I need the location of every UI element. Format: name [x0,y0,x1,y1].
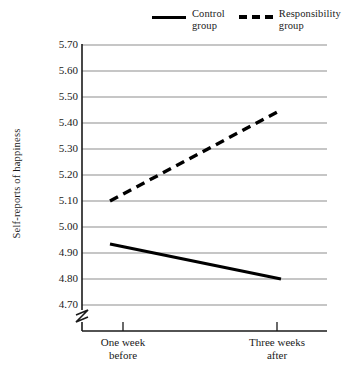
series-line-responsibility [110,110,281,201]
happiness-line-chart: Control group Responsibility group 5.70 … [0,0,345,369]
plot-area: One week before Three weeks after [0,0,345,369]
gridlines [82,45,327,305]
y-axis-break-icon [76,310,88,322]
x-tick-label-one-week-before: One week before [63,336,183,362]
series-line-control [110,244,281,279]
x-axis-ticks [123,322,277,331]
x-tick-label-three-weeks-after: Three weeks after [217,336,337,362]
